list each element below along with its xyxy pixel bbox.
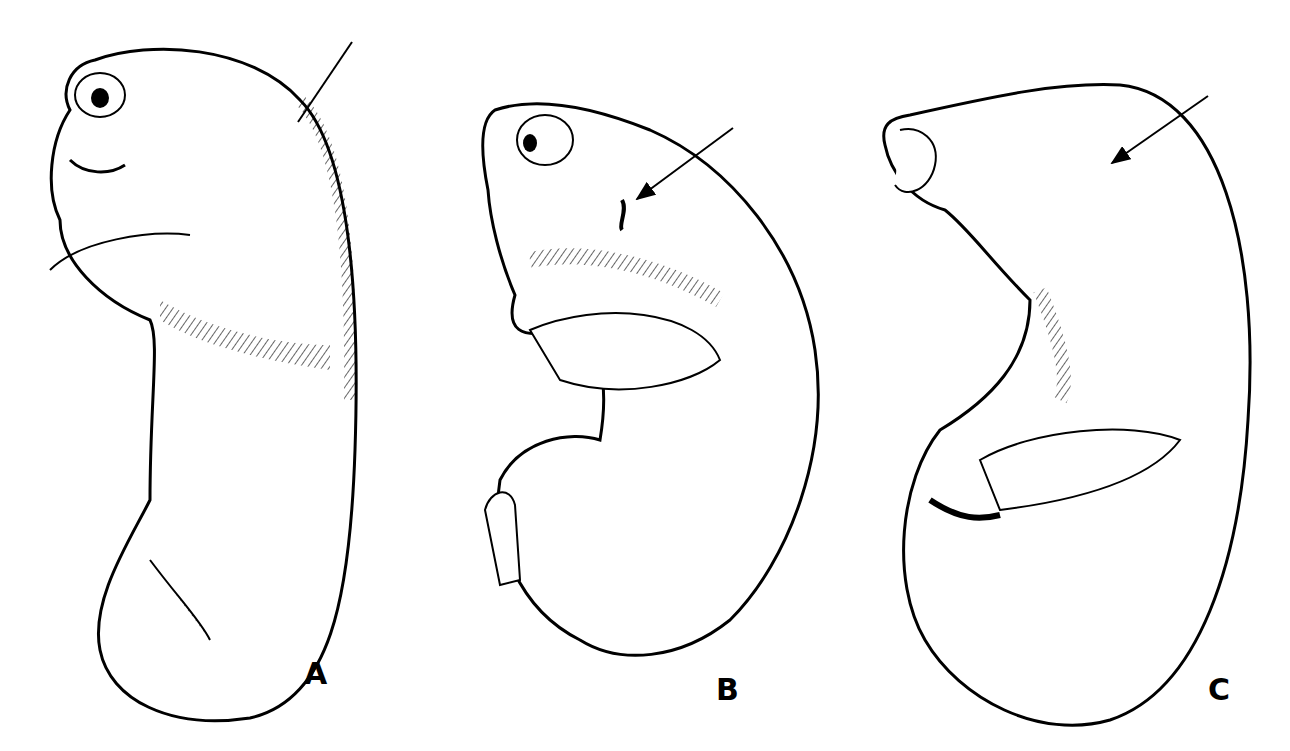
embryo-a: [50, 49, 356, 720]
panel-label-a: A: [304, 656, 327, 691]
figure-illustration: [0, 0, 1290, 751]
panel-label-c: C: [1208, 672, 1230, 707]
panel-label-b: B: [716, 672, 739, 707]
embryo-b: [483, 104, 818, 655]
arrow-a: [298, 42, 352, 122]
embryo-c: [884, 85, 1250, 726]
